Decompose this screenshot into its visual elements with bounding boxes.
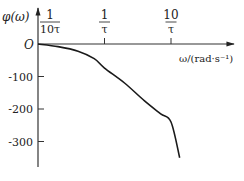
y-tick-label: -100 [8, 71, 33, 84]
x-tick-label-numerator: 10 [163, 8, 178, 22]
x-axis-label: ω/(rad·s⁻¹) [179, 53, 233, 64]
x-tick-label-denominator: 10τ [40, 23, 60, 36]
y-axis-label: φ(ω) [2, 10, 30, 24]
phase-chart: φ(ω) O ω/(rad·s⁻¹) 110τ1τ10τ -100-200-30… [0, 0, 244, 181]
x-tick-label-denominator: τ [101, 23, 107, 36]
x-tick-label-numerator: 1 [101, 8, 109, 22]
y-tick-label: -300 [8, 136, 33, 149]
phase-curve [38, 44, 180, 158]
x-tick-label-denominator: τ [168, 23, 174, 36]
x-tick-label-numerator: 1 [46, 8, 54, 22]
origin-label: O [24, 38, 34, 52]
y-tick-label: -200 [8, 103, 33, 116]
